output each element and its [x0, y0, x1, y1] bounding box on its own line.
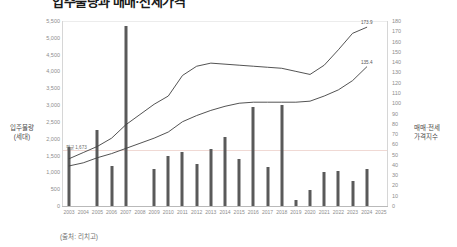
y-axis-right-tick: 10 [392, 193, 418, 199]
x-axis-tick: 2013 [205, 209, 216, 215]
x-axis-tick: 2010 [163, 209, 174, 215]
y-axis-right-tick: 120 [392, 80, 418, 86]
y-axis-right-title: 매매·전세 가격지수 [414, 123, 457, 142]
line-series-layer [62, 21, 388, 206]
y-axis-right-tick: 40 [392, 162, 418, 168]
x-axis-tick: 2024 [361, 209, 372, 215]
x-axis-tick: 2012 [191, 209, 202, 215]
x-axis-tick: 2009 [149, 209, 160, 215]
y-axis-right-tick: 100 [392, 100, 418, 106]
x-axis-tick: 2011 [177, 209, 188, 215]
x-axis-tick: 2022 [333, 209, 344, 215]
x-axis-tick: 2019 [290, 209, 301, 215]
x-axis-tick: 2023 [347, 209, 358, 215]
x-axis-tick: 2016 [248, 209, 259, 215]
x-axis-tick: 2025 [375, 209, 386, 215]
x-axis-tick: 2003 [64, 209, 75, 215]
x-axis-tick: 2021 [319, 209, 330, 215]
x-axis-tick: 2005 [92, 209, 103, 215]
x-axis-tick: 2006 [106, 209, 117, 215]
y-axis-right-tick: 90 [392, 111, 418, 117]
line-endpoint-label: 173.9 [361, 20, 373, 25]
y-axis-left-tick: 0 [34, 203, 60, 209]
y-axis-left-tick: 5,000 [34, 35, 60, 41]
y-axis-right-tick: 170 [392, 28, 418, 34]
y-axis-left-tick: 5,500 [34, 18, 60, 24]
y-axis-left-title-line1: 입주물량 [2, 123, 42, 132]
x-axis-tick: 2004 [78, 209, 89, 215]
x-axis-tick: 2017 [262, 209, 273, 215]
chart-title: 입주물량과 매매·전세가격 [52, 0, 185, 10]
line-series-path [69, 27, 367, 158]
line-endpoint-label: 135.4 [361, 60, 373, 65]
x-axis-tick: 2020 [304, 209, 315, 215]
y-axis-left-tick: 4,000 [34, 68, 60, 74]
x-axis-tick: 2015 [234, 209, 245, 215]
y-axis-left-tick: 3,000 [34, 102, 60, 108]
x-axis-tick: 2008 [134, 209, 145, 215]
y-axis-right-tick: 60 [392, 141, 418, 147]
line-series-path [69, 67, 367, 166]
x-axis-tick: 2007 [120, 209, 131, 215]
y-axis-right-title-line2: 가격지수 [414, 132, 457, 141]
y-axis-right-tick: 180 [392, 18, 418, 24]
y-axis-right-tick: 140 [392, 59, 418, 65]
y-axis-right-tick: 150 [392, 49, 418, 55]
y-axis-right-tick: 0 [392, 203, 418, 209]
y-axis-left-tick: 4,500 [34, 52, 60, 58]
chart-root: 입주물량과 매매·전세가격 05001,0001,5002,0002,5003,… [0, 0, 457, 247]
x-axis-line [62, 206, 388, 207]
y-axis-left-tick: 500 [34, 186, 60, 192]
x-axis-tick: 2018 [276, 209, 287, 215]
y-axis-right-tick: 130 [392, 69, 418, 75]
x-axis-tick: 2014 [219, 209, 230, 215]
source-note: (출처: 리치고) [60, 231, 98, 241]
y-axis-left-tick: 1,500 [34, 153, 60, 159]
y-axis-left-title: 입주물량 (세대) [2, 123, 42, 142]
y-axis-left-title-line2: (세대) [2, 132, 42, 141]
average-annotation-label: 평균 1,673 [66, 144, 87, 150]
y-axis-right-tick: 160 [392, 39, 418, 45]
y-axis-left-tick: 1,000 [34, 169, 60, 175]
x-axis-ticks: 2003200420052006200720082009201020112012… [62, 209, 388, 221]
y-axis-left-tick: 3,500 [34, 85, 60, 91]
y-axis-right-tick: 50 [392, 152, 418, 158]
y-axis-right-title-line1: 매매·전세 [414, 123, 457, 132]
y-axis-right-tick: 20 [392, 182, 418, 188]
y-axis-right-tick: 30 [392, 172, 418, 178]
y-axis-right-tick: 110 [392, 90, 418, 96]
